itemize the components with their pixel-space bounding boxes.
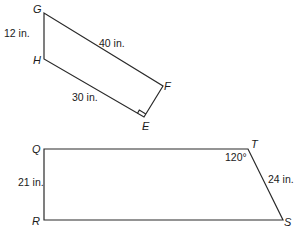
vertex-label-e: E (142, 120, 150, 132)
quadrilateral-ghef (44, 13, 163, 117)
diagram-canvas: G H F E 12 in. 40 in. 30 in. Q T R S 21 … (0, 0, 308, 241)
vertex-label-t: T (251, 138, 259, 150)
figure-qtsr: Q T R S 21 in. 24 in. 120° (18, 138, 294, 228)
trapezoid-qtsr (44, 149, 283, 220)
vertex-label-h: H (33, 54, 41, 66)
measure-gh: 12 in. (4, 27, 30, 39)
vertex-label-q: Q (32, 143, 41, 155)
vertex-label-g: G (33, 3, 42, 15)
vertex-label-f: F (164, 80, 172, 92)
measure-qr: 21 in. (18, 176, 44, 188)
measure-gf: 40 in. (99, 37, 125, 49)
vertex-label-r: R (32, 215, 40, 227)
measure-he: 30 in. (72, 91, 98, 103)
angle-t: 120° (225, 151, 247, 163)
vertex-label-s: S (284, 216, 292, 228)
figure-ghef: G H F E 12 in. 40 in. 30 in. (4, 3, 172, 132)
measure-ts: 24 in. (268, 173, 294, 185)
